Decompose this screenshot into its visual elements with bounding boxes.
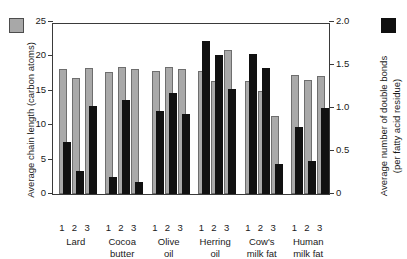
bar-pair <box>198 22 210 194</box>
right-axis-tick: 2.0 <box>329 21 334 22</box>
bar-series-container <box>53 24 329 194</box>
x-axis-sub-labels: 1 2 3 <box>57 222 95 233</box>
double-bonds-bar <box>308 161 316 194</box>
double-bonds-bar <box>63 142 71 194</box>
chart-plot-area: 0510152025 00.51.01.52.0 <box>52 23 330 195</box>
bar-pair <box>304 22 316 194</box>
right-axis-tick: 0 <box>329 193 334 194</box>
left-axis-tick-label: 25 <box>35 15 46 26</box>
double-bonds-bar <box>89 106 97 194</box>
right-axis-tick-label: 0 <box>336 187 341 198</box>
bar-pair <box>152 22 164 194</box>
bar-pair <box>224 22 236 194</box>
bar-pair <box>291 22 303 194</box>
double-bonds-bar <box>135 182 143 194</box>
right-axis-title-line2: (per fatty acid residue) <box>390 26 403 226</box>
right-axis-tick-label: 1.0 <box>336 101 349 112</box>
double-bonds-bar <box>182 114 190 194</box>
double-bonds-bar <box>249 54 257 194</box>
left-axis-tick: 25 <box>48 21 53 22</box>
bar-pair <box>85 22 97 194</box>
bar-pair <box>178 22 190 194</box>
left-axis-tick-label: 0 <box>41 187 46 198</box>
bar-pair <box>131 22 143 194</box>
x-axis-group-name: Humanmilk fat <box>275 236 341 259</box>
double-bonds-bar <box>156 111 164 194</box>
x-axis-sub-labels: 1 2 3 <box>243 222 281 233</box>
bar-pair <box>245 22 257 194</box>
group-name-line2: milk fat <box>275 248 341 259</box>
left-axis-tick-label: 15 <box>35 84 46 95</box>
double-bonds-bar <box>202 41 210 194</box>
chain-length-bar <box>131 69 139 194</box>
x-axis-sub-labels: 1 2 3 <box>289 222 327 233</box>
right-axis-tick-label: 2.0 <box>336 15 349 26</box>
double-bonds-bar <box>215 55 223 194</box>
double-bonds-bar <box>295 127 303 194</box>
right-axis-tick: 0.5 <box>329 150 334 151</box>
double-bonds-bar <box>228 89 236 194</box>
left-axis-tick-label: 20 <box>35 49 46 60</box>
double-bonds-bar <box>262 68 270 194</box>
double-bonds-bar <box>76 171 84 194</box>
x-axis-sub-labels: 1 2 3 <box>103 222 141 233</box>
x-axis-sub-labels: 1 2 3 <box>150 222 188 233</box>
bar-pair <box>59 22 71 194</box>
right-axis-tick-label: 1.5 <box>336 58 349 69</box>
chain-length-legend-swatch <box>9 18 24 33</box>
group-name-line1: Human <box>275 236 341 248</box>
bar-pair <box>271 22 283 194</box>
double-bonds-bar <box>275 164 283 194</box>
bar-pair <box>72 22 84 194</box>
right-axis-title-line1: Average number of double bonds <box>377 26 390 226</box>
double-bonds-bar <box>122 100 130 194</box>
x-axis-sub-labels: 1 2 3 <box>196 222 234 233</box>
chain-length-bar <box>105 72 113 194</box>
bar-pair <box>165 22 177 194</box>
right-axis-tick-label: 0.5 <box>336 144 349 155</box>
double-bonds-bar <box>321 108 329 194</box>
right-axis-tick: 1.5 <box>329 64 334 65</box>
left-axis-tick-label: 10 <box>35 118 46 129</box>
right-axis-title: Average number of double bonds (per fatt… <box>377 26 405 226</box>
left-axis-tick-label: 5 <box>41 153 46 164</box>
right-axis-tick: 1.0 <box>329 107 334 108</box>
bar-pair <box>118 22 130 194</box>
bar-pair <box>258 22 270 194</box>
bar-pair <box>317 22 329 194</box>
double-bonds-bar <box>169 93 177 194</box>
double-bonds-bar <box>109 177 117 194</box>
bar-pair <box>105 22 117 194</box>
bar-pair <box>211 22 223 194</box>
